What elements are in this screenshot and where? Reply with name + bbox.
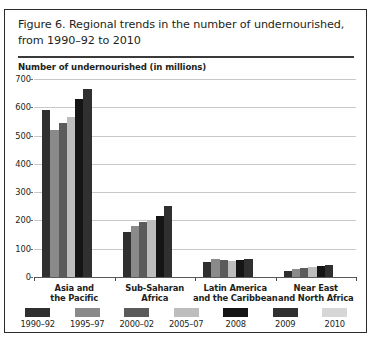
bar — [228, 261, 236, 277]
category-label-line: and North Africa — [278, 293, 354, 303]
y-axis-tick-mark — [30, 164, 33, 165]
legend-item[interactable]: 2005–07 — [162, 308, 212, 329]
bar — [236, 260, 244, 277]
legend-swatch — [322, 308, 347, 317]
x-axis-category-label: Asia andthe Pacific — [28, 283, 121, 304]
chart-plot-area: 0100200300400500600700 Asia andthe Pacif… — [5, 10, 368, 334]
bar-group — [123, 10, 173, 277]
bar — [308, 267, 316, 277]
y-axis-tick-label: 200 — [5, 215, 31, 225]
legend-label: 2010 — [310, 319, 360, 329]
bar-group — [42, 10, 92, 277]
bar — [59, 123, 67, 277]
x-axis-tick-mark — [276, 277, 277, 281]
bar — [220, 260, 228, 277]
bar — [203, 262, 211, 277]
y-axis-tick-label: 500 — [5, 131, 31, 141]
bar — [123, 232, 131, 277]
legend-item[interactable]: 2009 — [261, 308, 311, 329]
bar — [50, 130, 58, 277]
bar — [139, 222, 147, 277]
category-label-line: Latin America — [204, 283, 267, 293]
legend-label: 2008 — [211, 319, 261, 329]
legend-label: 1995–97 — [63, 319, 113, 329]
y-axis-tick-label: 0 — [5, 272, 31, 282]
legend-item[interactable]: 1990–92 — [13, 308, 63, 329]
legend-label: 2005–07 — [162, 319, 212, 329]
legend-item[interactable]: 2010 — [310, 308, 360, 329]
y-axis-tick-mark — [30, 107, 33, 108]
bar — [147, 220, 155, 277]
bar — [156, 216, 164, 277]
y-axis-tick-mark — [30, 136, 33, 137]
bar — [244, 259, 252, 277]
legend-label: 2009 — [261, 319, 311, 329]
legend-label: 1990–92 — [13, 319, 63, 329]
bar — [300, 268, 308, 277]
bar — [42, 110, 50, 277]
y-axis-tick-mark — [30, 79, 33, 80]
bar — [164, 206, 172, 277]
legend-item[interactable]: 2000–02 — [112, 308, 162, 329]
legend-item[interactable]: 2008 — [211, 308, 261, 329]
bar — [284, 271, 292, 277]
legend-swatch — [273, 308, 298, 317]
bar — [325, 265, 333, 277]
y-axis-tick-label: 100 — [5, 244, 31, 254]
bar — [292, 269, 300, 277]
y-axis-tick-mark — [30, 249, 33, 250]
legend-swatch — [75, 308, 100, 317]
bar — [211, 259, 219, 277]
bar-group — [203, 10, 253, 277]
bar-group — [284, 10, 334, 277]
legend-swatch — [223, 308, 248, 317]
category-label-line: Africa — [141, 293, 168, 303]
legend-swatch — [25, 308, 50, 317]
y-axis-tick-mark — [30, 192, 33, 193]
category-label-line: and the Caribbean — [193, 293, 278, 303]
bar — [83, 89, 91, 277]
x-axis-category-label: Near Eastand North Africa — [270, 283, 363, 304]
x-axis-category-label: Sub-SaharanAfrica — [109, 283, 202, 304]
category-label-line: Near East — [294, 283, 338, 293]
x-axis-tick-mark — [115, 277, 116, 281]
category-label-line: Sub-Saharan — [125, 283, 184, 293]
y-axis-tick-mark — [30, 220, 33, 221]
x-axis-category-label: Latin Americaand the Caribbean — [189, 283, 282, 304]
legend-swatch — [124, 308, 149, 317]
x-axis-tick-mark — [195, 277, 196, 281]
y-axis-tick-label: 400 — [5, 159, 31, 169]
y-axis-tick-label: 600 — [5, 102, 31, 112]
bar — [317, 266, 325, 277]
x-axis-tick-mark — [356, 277, 357, 281]
legend-label: 2000–02 — [112, 319, 162, 329]
legend-item[interactable]: 1995–97 — [63, 308, 113, 329]
y-axis-tick-label: 700 — [5, 74, 31, 84]
y-axis-tick-mark — [30, 277, 33, 278]
category-label-line: Asia and — [55, 283, 94, 293]
category-label-line: the Pacific — [50, 293, 98, 303]
bar — [131, 226, 139, 277]
figure-panel: Figure 6. Regional trends in the number … — [4, 9, 367, 333]
chart-legend: 1990–921995–972000–022005–07200820092010 — [5, 306, 368, 332]
bar — [75, 99, 83, 277]
y-axis-tick-label: 300 — [5, 187, 31, 197]
legend-swatch — [174, 308, 199, 317]
bar — [67, 117, 75, 277]
x-axis-tick-mark — [34, 277, 35, 281]
